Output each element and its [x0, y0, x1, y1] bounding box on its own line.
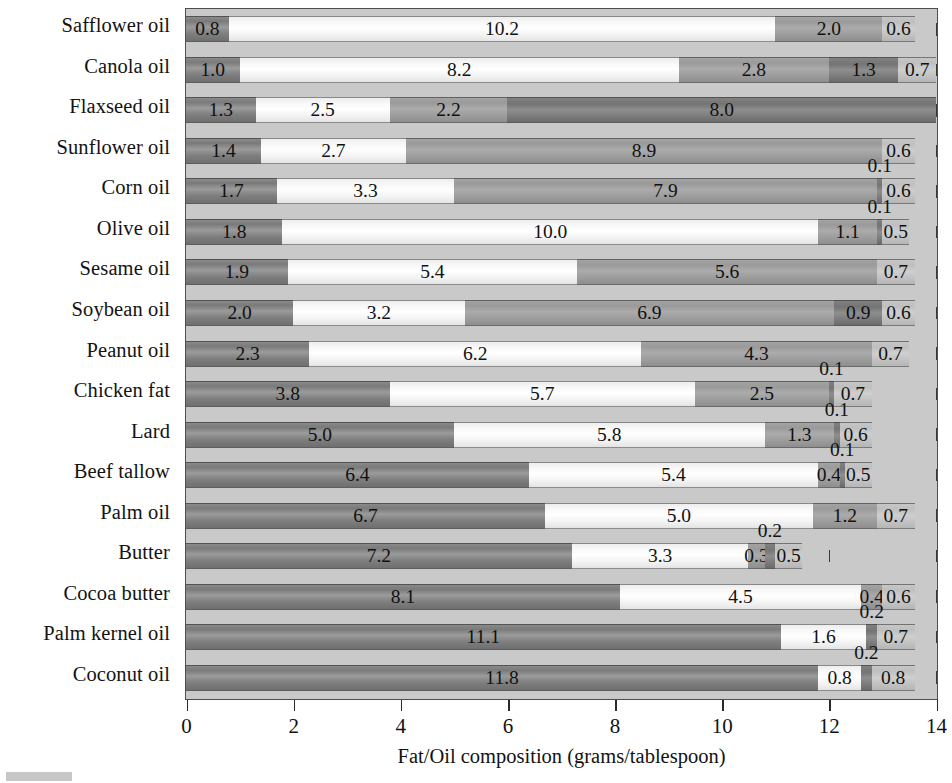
bar-segment[interactable]: 1.1 [818, 219, 877, 245]
bar-segment[interactable]: 1.9 [186, 259, 288, 285]
segment-value-label: 1.1 [835, 222, 859, 242]
bar-segment[interactable]: 0.7 [898, 57, 936, 83]
bar-segment[interactable]: 0.9 [834, 300, 882, 326]
bar-segment[interactable]: 2.5 [695, 381, 829, 407]
bar-segment[interactable]: 5.7 [390, 381, 695, 407]
bar-segment[interactable]: 2.7 [261, 138, 406, 164]
bar-segment[interactable]: 0.5 [845, 462, 872, 488]
bar-segment[interactable]: 11.1 [186, 624, 781, 650]
segment-value-label: 1.8 [222, 222, 246, 242]
bar-segment[interactable]: 11.8 [186, 665, 818, 691]
bar-segment[interactable]: 3.2 [293, 300, 464, 326]
bar-segment[interactable]: 8.2 [240, 57, 679, 83]
bar-segment[interactable]: 0.8 [872, 665, 915, 691]
stacked-bar[interactable]: 5.05.81.30.10.6 [186, 422, 872, 448]
segment-value-label: 5.4 [420, 263, 444, 283]
x-tick-label: 0 [181, 714, 192, 739]
bar-segment[interactable]: 2.8 [679, 57, 829, 83]
bar-segment[interactable]: 0.8 [818, 665, 861, 691]
bar-segment[interactable]: 0.5 [775, 543, 802, 569]
stacked-bar[interactable]: 2.36.24.30.7 [186, 341, 909, 367]
stacked-bar[interactable]: 6.75.01.20.7 [186, 503, 915, 529]
bar-segment[interactable]: 6.9 [465, 300, 835, 326]
stacked-bar[interactable]: 1.73.37.90.10.6 [186, 178, 915, 204]
bar-segment[interactable]: 3.8 [186, 381, 390, 407]
bar-segment[interactable]: 1.3 [829, 57, 899, 83]
bar-segment[interactable]: 6.4 [186, 462, 529, 488]
segment-value-label: 2.2 [436, 101, 460, 121]
stacked-bar[interactable]: 11.11.60.20.7 [186, 624, 915, 650]
bar-segment[interactable]: 0.6 [882, 16, 914, 42]
bar-segment[interactable]: 0.7 [872, 341, 910, 367]
bar-segment[interactable]: 1.0 [186, 57, 240, 83]
bar-segment[interactable]: 5.4 [529, 462, 818, 488]
x-tick [187, 700, 189, 711]
bar-segment[interactable]: 1.3 [765, 422, 835, 448]
bar-segment[interactable]: 8.0 [507, 97, 936, 123]
segment-value-label: 0.2 [854, 643, 878, 663]
x-tick-label: 10 [712, 714, 733, 739]
stacked-bar[interactable]: 11.80.80.20.8 [186, 665, 915, 691]
stacked-bar[interactable]: 2.03.26.90.90.6 [186, 300, 915, 326]
bar-segment[interactable]: 0.7 [877, 624, 915, 650]
bar-segment[interactable]: 0.6 [882, 300, 914, 326]
stacked-bar[interactable]: 1.08.22.81.30.7 [186, 57, 936, 83]
segment-value-label: 2.5 [750, 384, 774, 404]
bar-segment[interactable]: 8.1 [186, 584, 620, 610]
stacked-bar[interactable]: 3.85.72.50.10.7 [186, 381, 872, 407]
bar-segment[interactable]: 0.8 [186, 16, 229, 42]
segment-value-label: 2.5 [310, 101, 334, 121]
segment-value-label: 3.3 [648, 546, 672, 566]
stacked-bar[interactable]: 0.810.22.00.6 [186, 16, 915, 42]
bar-segment[interactable]: 10.0 [282, 219, 818, 245]
bar-segment[interactable]: 3.3 [277, 178, 454, 204]
bar-segment[interactable]: 5.0 [186, 422, 454, 448]
bar-segment[interactable]: 4.5 [620, 584, 861, 610]
bar-segment[interactable]: 3.3 [572, 543, 749, 569]
bar-segment[interactable]: 8.9 [406, 138, 883, 164]
bar-segment[interactable]: 5.8 [454, 422, 765, 448]
bar-segment[interactable]: 1.2 [813, 503, 877, 529]
bar-segment[interactable]: 2.0 [775, 16, 882, 42]
bar-segment[interactable]: 1.8 [186, 219, 282, 245]
bar-segment[interactable]: 5.4 [288, 259, 577, 285]
category-label-butter: Butter [118, 541, 170, 564]
bar-segment[interactable]: 0.7 [877, 503, 915, 529]
stacked-bar[interactable]: 6.45.40.40.10.5 [186, 462, 872, 488]
segment-value-label: 5.6 [715, 263, 739, 283]
bar-segment[interactable]: 7.2 [186, 543, 572, 569]
bar-segment[interactable]: 1.7 [186, 178, 277, 204]
bar-segment[interactable]: 1.4 [186, 138, 261, 164]
bar-segment[interactable]: 2.5 [256, 97, 390, 123]
bar-segment[interactable]: 6.7 [186, 503, 545, 529]
stacked-bar[interactable]: 7.23.30.30.20.5 [186, 543, 802, 569]
segment-value-label: 0.2 [860, 602, 884, 622]
bar-segment[interactable]: 6.2 [309, 341, 641, 367]
bar-segment[interactable]: 0.2 [765, 543, 776, 569]
stacked-bar[interactable]: 1.95.45.60.7 [186, 259, 915, 285]
category-label-palm-oil: Palm oil [100, 501, 170, 524]
segment-value-label: 5.7 [530, 384, 554, 404]
stacked-bar[interactable]: 8.14.50.40.6 [186, 584, 915, 610]
stacked-bar[interactable]: 1.810.01.10.10.5 [186, 219, 909, 245]
bar-segment[interactable]: 1.3 [186, 97, 256, 123]
stacked-bar[interactable]: 1.32.52.28.0 [186, 97, 936, 123]
bar-segment[interactable]: 10.2 [229, 16, 775, 42]
segment-value-label: 2.7 [321, 141, 345, 161]
bar-segment[interactable]: 0.7 [877, 259, 915, 285]
stacked-bar[interactable]: 1.42.78.90.6 [186, 138, 915, 164]
bar-segment[interactable]: 2.2 [390, 97, 508, 123]
category-label-sunflower-oil: Sunflower oil [57, 136, 170, 159]
bar-segment[interactable]: 5.6 [577, 259, 877, 285]
bar-segment[interactable]: 0.2 [861, 665, 872, 691]
bar-segment[interactable]: 0.3 [748, 543, 764, 569]
bar-segment[interactable]: 2.3 [186, 341, 309, 367]
bar-segment[interactable]: 0.6 [882, 584, 914, 610]
bar-segment[interactable]: 0.4 [818, 462, 839, 488]
bar-segment[interactable]: 7.9 [454, 178, 877, 204]
segment-value-label: 0.7 [905, 60, 929, 80]
bar-segment[interactable]: 0.5 [882, 219, 909, 245]
bar-segment[interactable]: 2.0 [186, 300, 293, 326]
segment-value-label: 1.9 [225, 263, 249, 283]
segment-value-label: 11.1 [467, 627, 500, 647]
